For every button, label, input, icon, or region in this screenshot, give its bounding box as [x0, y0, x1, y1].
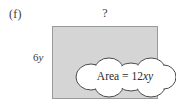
area-callout-bubble: Area = 12xy [76, 55, 174, 99]
cloud-bubble-icon [76, 55, 174, 99]
width-label: ? [52, 7, 158, 19]
height-label: 6y [33, 52, 43, 63]
geometry-figure: ) (f) ? 6y [0, 0, 176, 110]
height-label-variable: y [39, 51, 44, 63]
part-label: (f) [9, 8, 22, 20]
